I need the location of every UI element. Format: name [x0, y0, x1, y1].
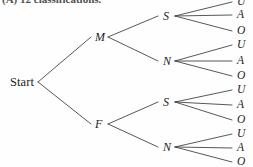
tree-edge-lines [38, 2, 232, 162]
edge-leaf-m-s-o [175, 16, 232, 31]
tree-leaf-m-s-a: A [237, 9, 244, 21]
edge-start-to-m [38, 37, 91, 82]
tree-leaf-f-n-o: O [237, 156, 245, 167]
edge-f-to-n-3 [108, 124, 158, 147]
tree-node-n-lvl2-1: N [163, 55, 171, 67]
tree-leaf-m-n-u: U [237, 39, 245, 51]
tree-edges [0, 0, 253, 167]
tree-node-s-lvl2-0: S [163, 10, 169, 22]
tree-node-start: Start [10, 76, 34, 89]
edge-m-to-n-1 [108, 37, 158, 61]
edge-leaf-m-s-u [175, 2, 232, 16]
tree-leaf-f-n-u: U [237, 128, 245, 140]
edge-leaf-m-n-o [175, 61, 232, 76]
tree-node-f-1: F [95, 118, 102, 130]
edge-leaf-f-s-u [175, 90, 232, 102]
probability-tree-figure: (A) 12 classifications. StartMFSNSNUAOUA… [0, 0, 253, 167]
edge-f-to-s-2 [108, 102, 158, 124]
tree-leaf-f-n-a: A [237, 142, 244, 154]
tree-node-s-lvl2-2: S [163, 96, 169, 108]
edge-leaf-f-n-o [175, 147, 232, 162]
edge-leaf-f-n-a [175, 147, 232, 148]
tree-leaf-m-s-o: O [237, 25, 245, 37]
edge-start-to-f [38, 82, 91, 124]
tree-node-n-lvl2-3: N [163, 141, 171, 153]
edge-leaf-f-n-u [175, 134, 232, 147]
tree-leaf-f-s-u: U [237, 84, 245, 96]
tree-leaf-m-s-u: U [237, 0, 245, 8]
tree-node-m-0: M [95, 31, 105, 43]
tree-leaf-f-s-a: A [237, 99, 244, 111]
edge-leaf-m-s-a [175, 15, 232, 16]
edge-leaf-m-n-u [175, 45, 232, 61]
edge-m-to-s-0 [108, 16, 158, 37]
tree-leaf-m-n-a: A [237, 55, 244, 67]
tree-leaf-f-s-o: O [237, 114, 245, 126]
tree-leaf-m-n-o: O [237, 70, 245, 82]
